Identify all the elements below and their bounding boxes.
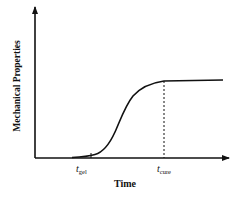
y-axis-label: Mechanical Properties [12, 40, 22, 132]
property-curve [72, 80, 223, 158]
t-gel-label: tgel [76, 163, 87, 175]
x-axis-label: Time [114, 178, 137, 189]
t-cure-label: tcure [157, 163, 171, 175]
cure-curve-diagram: Mechanical Properties tgel tcure Time [0, 0, 243, 203]
